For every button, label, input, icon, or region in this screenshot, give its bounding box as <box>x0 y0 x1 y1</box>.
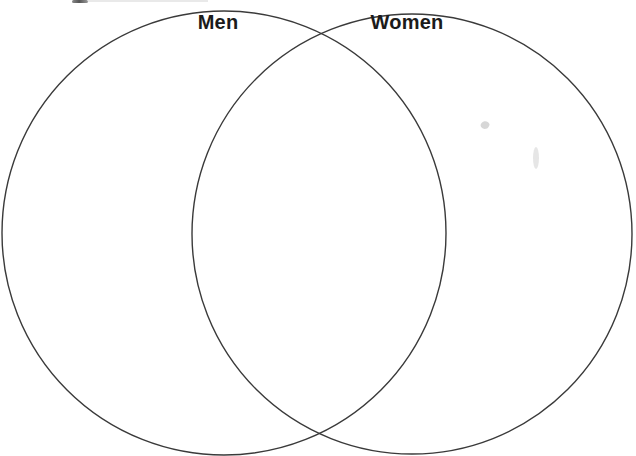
men-circle <box>2 11 446 455</box>
venn-diagram-worksheet: Men Women <box>0 0 636 456</box>
venn-diagram <box>0 0 636 456</box>
women-label: Women <box>371 12 444 32</box>
men-label: Men <box>198 12 239 32</box>
women-circle <box>192 14 632 454</box>
